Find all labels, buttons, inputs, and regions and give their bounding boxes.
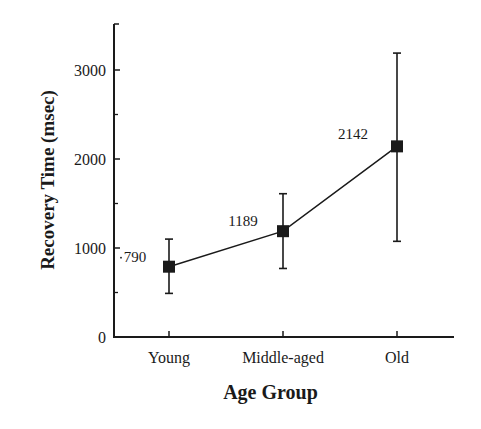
label-dot bbox=[120, 257, 122, 259]
data-label: 2142 bbox=[338, 126, 368, 142]
data-label: 1189 bbox=[228, 213, 257, 229]
y-axis-title: Recovery Time (msec) bbox=[37, 90, 59, 270]
chart-canvas: 0100020003000YoungMiddle-agedOld79011892… bbox=[0, 0, 481, 429]
x-tick-label: Middle-aged bbox=[242, 349, 324, 367]
x-tick-label: Old bbox=[385, 349, 409, 366]
data-label: 790 bbox=[124, 249, 147, 265]
y-tick-label: 2000 bbox=[74, 151, 106, 168]
y-tick-label: 3000 bbox=[74, 62, 106, 79]
data-point-marker bbox=[391, 140, 403, 152]
y-tick-label: 1000 bbox=[74, 240, 106, 257]
y-tick-label: 0 bbox=[98, 329, 106, 346]
data-point-marker bbox=[163, 261, 175, 273]
data-point-marker bbox=[277, 225, 289, 237]
x-axis-title: Age Group bbox=[0, 381, 481, 404]
x-tick-label: Young bbox=[148, 349, 190, 367]
